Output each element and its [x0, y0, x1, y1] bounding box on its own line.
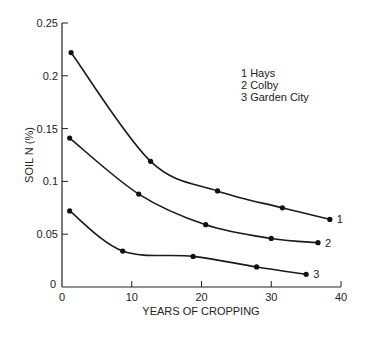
x-tick-label: 0	[59, 291, 65, 303]
data-point	[215, 188, 220, 193]
series-line-garden-city	[70, 211, 306, 274]
series-line-hays	[71, 53, 330, 220]
y-tick-label: 0.25	[37, 17, 58, 29]
series-hays: 1	[68, 50, 342, 225]
x-tick-label: 40	[335, 291, 347, 303]
data-point	[327, 217, 332, 222]
series-end-label: 1	[337, 213, 343, 225]
data-point	[191, 254, 196, 259]
series-end-label: 3	[313, 268, 319, 280]
data-point	[203, 222, 208, 227]
y-tick-label: 0	[50, 278, 56, 290]
data-point	[67, 208, 72, 213]
series-garden-city: 3	[67, 208, 319, 280]
series-group: 123	[67, 50, 343, 280]
data-point	[269, 236, 274, 241]
data-point	[280, 205, 285, 210]
data-point	[254, 264, 259, 269]
data-point	[67, 136, 72, 141]
axes: 00.050.10.150.20.25010203040	[37, 17, 348, 303]
legend-item-hays: 1 Hays	[241, 67, 276, 79]
soil-n-line-chart: 00.050.10.150.20.25010203040 123 1 Hays …	[0, 0, 366, 337]
legend-item-garden-city: 3 Garden City	[241, 91, 309, 103]
series-end-label: 2	[325, 237, 331, 249]
y-tick-label: 0.1	[43, 175, 58, 187]
data-point	[304, 272, 309, 277]
y-tick-label: 0.2	[43, 70, 58, 82]
legend: 1 Hays 2 Colby 3 Garden City	[241, 67, 309, 103]
x-axis-title: YEARS OF CROPPING	[142, 305, 259, 317]
x-tick-label: 20	[195, 291, 207, 303]
data-point	[120, 248, 125, 253]
y-axis-title: SOIL N (%)	[23, 127, 35, 183]
x-tick-label: 30	[265, 291, 277, 303]
series-line-colby	[70, 138, 318, 243]
y-tick-label: 0.05	[37, 228, 58, 240]
data-point	[315, 240, 320, 245]
legend-item-colby: 2 Colby	[241, 79, 279, 91]
data-point	[148, 159, 153, 164]
data-point	[136, 191, 141, 196]
x-tick-label: 10	[126, 291, 138, 303]
y-tick-label: 0.15	[37, 123, 58, 135]
data-point	[68, 50, 73, 55]
series-colby: 2	[67, 136, 331, 249]
